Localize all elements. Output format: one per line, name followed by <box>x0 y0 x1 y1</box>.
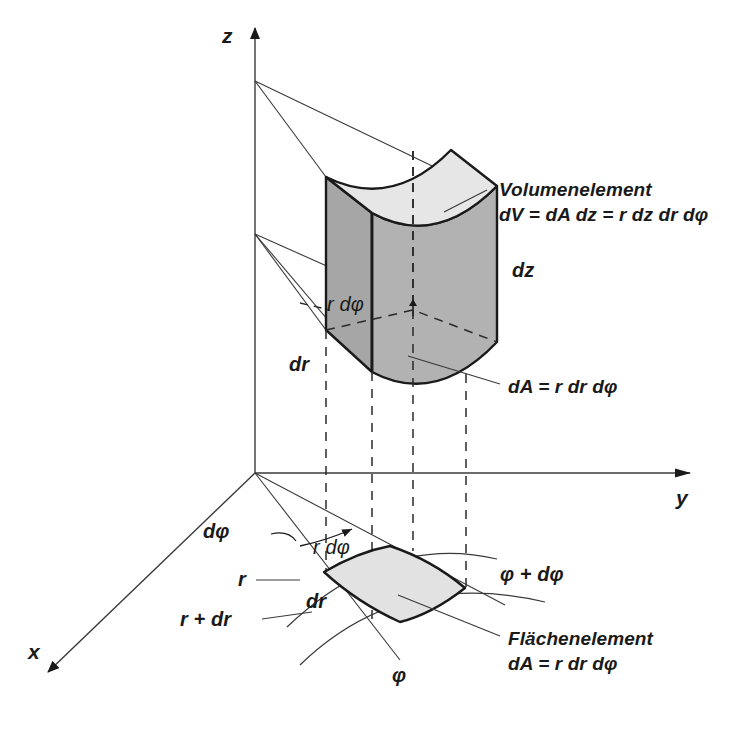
annotation-area-element-lower: Flächenelement dA = r dr dφ <box>508 626 653 676</box>
label-phi-plus-dphi: φ + dφ <box>500 561 564 587</box>
label-r-dphi-plane: r dφ <box>313 534 350 560</box>
label-dr-plane: dr <box>306 588 326 614</box>
leader-r-plus-dr <box>262 612 312 619</box>
label-dz: dz <box>512 257 534 283</box>
annotation-area-element-upper-formula: dA = r dr dφ <box>508 374 617 399</box>
volume-element-prism <box>326 150 497 384</box>
label-r-dphi-prism: r dφ <box>327 291 364 317</box>
annotation-volume-element-title: Volumenelement <box>499 177 708 202</box>
annotation-area-element-lower-title: Flächenelement <box>508 626 653 651</box>
diagram-canvas <box>0 0 749 732</box>
axis-x <box>48 473 255 672</box>
label-dr-prism: dr <box>289 351 309 377</box>
annotation-volume-element-formula: dV = dA dz = r dz dr dφ <box>499 202 708 227</box>
label-r-plus-dr: r + dr <box>180 606 231 632</box>
label-phi: φ <box>392 662 406 688</box>
figure-container: z y x dz r dφ dr dφ r dφ r dr r + dr φ φ… <box>0 0 749 732</box>
axis-label-x: x <box>28 638 40 666</box>
annotation-area-element-lower-formula: dA = r dr dφ <box>508 651 653 676</box>
axis-label-y: y <box>676 484 688 512</box>
label-dphi-angle: dφ <box>203 518 230 544</box>
axis-label-z: z <box>222 22 233 50</box>
annotation-volume-element: Volumenelement dV = dA dz = r dz dr dφ <box>499 177 708 227</box>
label-r: r <box>238 566 246 592</box>
annotation-area-element-upper: dA = r dr dφ <box>508 374 617 399</box>
